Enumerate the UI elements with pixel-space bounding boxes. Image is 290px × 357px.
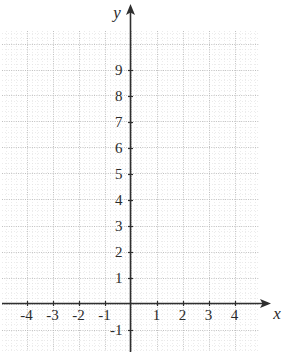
x-axis-label: x	[272, 304, 281, 323]
y-tick-label: 8	[115, 88, 123, 104]
x-tick-label: -1	[98, 307, 111, 323]
y-tick-label: 4	[115, 192, 123, 208]
x-tick-label: -2	[72, 307, 85, 323]
x-tick-label: 3	[205, 307, 213, 323]
y-tick-label: 2	[115, 244, 123, 260]
y-tick-label: 5	[115, 166, 123, 182]
x-tick-label: 4	[231, 307, 239, 323]
x-tick-label: -3	[46, 307, 59, 323]
x-tick-label: 2	[179, 307, 187, 323]
y-axis-label: y	[111, 3, 121, 22]
x-tick-label: -4	[20, 307, 33, 323]
y-tick-label: 9	[115, 62, 123, 78]
y-tick-label: -1	[110, 322, 123, 338]
y-tick-label: 3	[115, 218, 123, 234]
y-tick-label: 1	[115, 270, 123, 286]
y-tick-label: 6	[115, 140, 123, 156]
x-tick-label: 1	[153, 307, 161, 323]
coordinate-grid-figure: -4-3-2-11234987654321-1 x y	[0, 0, 290, 357]
y-tick-label: 7	[115, 114, 123, 130]
coordinate-plane-svg: -4-3-2-11234987654321-1 x y	[0, 0, 290, 357]
